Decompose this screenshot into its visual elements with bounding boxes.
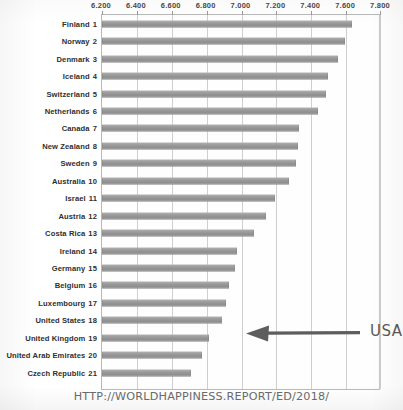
bar-row: Austria12 [102, 207, 379, 224]
country-name: Switzerland [46, 89, 89, 98]
bar [102, 212, 266, 219]
country-rank: 4 [93, 72, 97, 81]
country-name: Costa Rica [45, 229, 85, 238]
bar-row: Ireland14 [102, 242, 379, 259]
country-name: United States [36, 316, 86, 325]
x-axis-tick-labels: 6.2006.4006.6006.8007.0007.2007.4007.600… [0, 0, 403, 14]
bar-category-label: Sweden9 [60, 159, 97, 168]
country-name: Canada [62, 124, 90, 133]
bar-category-label: Canada7 [62, 124, 97, 133]
bar-category-label: Costa Rica13 [45, 229, 97, 238]
country-rank: 5 [93, 89, 97, 98]
country-name: Australia [52, 176, 85, 185]
source-url-text: HTTP://WORLDHAPPINESS.REPORT/ED/2018/ [0, 390, 403, 403]
country-name: New Zealand [42, 141, 90, 150]
bar-row: Iceland4 [102, 67, 379, 84]
country-name: United Arab Emirates [6, 351, 85, 360]
country-rank: 17 [88, 298, 97, 307]
country-rank: 20 [88, 351, 97, 360]
bar [102, 107, 318, 114]
country-name: Sweden [60, 159, 89, 168]
country-rank: 6 [93, 106, 97, 115]
country-rank: 16 [88, 281, 97, 290]
bar-row: Belgium16 [102, 277, 379, 294]
bar [102, 265, 235, 272]
country-name: Ireland [60, 246, 86, 255]
bar-row: Norway2 [102, 32, 379, 49]
bar-row: Australia10 [102, 172, 379, 189]
bar [102, 125, 299, 132]
country-name: Denmark [56, 54, 89, 63]
bar-row: Finland1 [102, 15, 379, 32]
country-name: Luxembourg [38, 298, 85, 307]
country-name: Germany [52, 264, 86, 273]
bar-row: Costa Rica13 [102, 224, 379, 241]
country-rank: 19 [88, 333, 97, 342]
country-rank: 14 [88, 246, 97, 255]
bar-row: Israel11 [102, 190, 379, 207]
x-axis-tick [380, 11, 381, 15]
bar-category-label: United Kingdom19 [25, 333, 97, 342]
happiness-bar-chart: 6.2006.4006.6006.8007.0007.2007.4007.600… [0, 0, 403, 410]
bar-category-label: Iceland4 [63, 72, 97, 81]
country-rank: 11 [89, 194, 97, 203]
bar [102, 195, 275, 202]
bar-category-label: Austria12 [58, 211, 97, 220]
bar-row: Germany15 [102, 259, 379, 276]
country-name: Netherlands [45, 106, 90, 115]
bar-row: Canada7 [102, 120, 379, 137]
bar-category-label: Israel11 [65, 194, 97, 203]
country-rank: 21 [88, 368, 97, 377]
bar [102, 38, 345, 45]
bar [102, 142, 298, 149]
country-rank: 15 [88, 264, 97, 273]
bar-category-label: New Zealand8 [42, 141, 97, 150]
bar [102, 20, 352, 27]
bar-category-label: Norway2 [62, 37, 97, 46]
country-rank: 18 [88, 316, 97, 325]
bar [102, 299, 226, 306]
bar-category-label: Luxembourg17 [38, 298, 97, 307]
country-name: United Kingdom [25, 333, 85, 342]
bar-category-label: Belgium16 [55, 281, 97, 290]
country-name: Belgium [55, 281, 86, 290]
bar-category-label: United States18 [36, 316, 97, 325]
country-name: Israel [65, 194, 85, 203]
bar-row: Denmark3 [102, 50, 379, 67]
country-name: Czech Republic [27, 368, 85, 377]
country-rank: 3 [93, 54, 97, 63]
bar [102, 352, 202, 359]
x-tick-label: 7.800 [358, 1, 402, 10]
bar-row: Czech Republic21 [102, 364, 379, 381]
country-name: Finland [62, 19, 90, 28]
bar-category-label: Switzerland5 [46, 89, 97, 98]
bar-category-label: Finland1 [62, 19, 97, 28]
country-rank: 12 [88, 211, 97, 220]
bar [102, 177, 289, 184]
usa-annotation-label: USA [370, 322, 403, 340]
country-name: Austria [58, 211, 85, 220]
bar [102, 334, 209, 341]
bar [102, 73, 328, 80]
bar-row: Luxembourg17 [102, 294, 379, 311]
usa-annotation: USA [232, 318, 402, 348]
country-rank: 9 [93, 159, 97, 168]
country-rank: 1 [93, 19, 97, 28]
country-name: Norway [62, 37, 90, 46]
country-rank: 10 [88, 176, 97, 185]
bar-category-label: Netherlands6 [45, 106, 97, 115]
bar-category-label: Denmark3 [56, 54, 97, 63]
bar-row: Sweden9 [102, 155, 379, 172]
bar [102, 369, 191, 376]
bar-category-label: Czech Republic21 [27, 368, 97, 377]
bar [102, 230, 254, 237]
bar [102, 247, 237, 254]
bar-row: Switzerland5 [102, 85, 379, 102]
bar-category-label: Australia10 [52, 176, 97, 185]
bar-category-label: United Arab Emirates20 [6, 351, 97, 360]
country-rank: 7 [93, 124, 97, 133]
bar-row: Netherlands6 [102, 102, 379, 119]
bar [102, 317, 222, 324]
bar [102, 55, 338, 62]
bar-row: United Arab Emirates20 [102, 347, 379, 364]
